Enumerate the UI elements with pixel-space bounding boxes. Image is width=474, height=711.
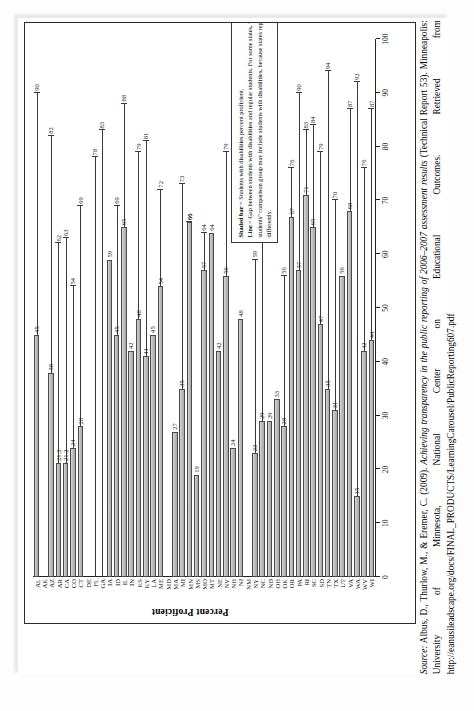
axis-tick-label: 10 — [381, 511, 390, 535]
bar — [354, 496, 360, 577]
chart-row: 7335 — [179, 39, 185, 577]
gap-value-label: 54 — [69, 278, 76, 285]
y-axis-title: Percent Proficient — [25, 607, 367, 621]
bar — [136, 319, 142, 577]
category-label: NE — [216, 579, 223, 597]
gap-line — [146, 141, 147, 356]
bar-value-label: 28 — [77, 418, 84, 425]
gap-value-label: 69 — [77, 197, 84, 204]
legend-line-2: Line = Gap between students with disabil… — [245, 22, 272, 237]
axis-tick — [376, 38, 380, 39]
category-label: IA — [106, 579, 113, 597]
bar-value-label: 45 — [149, 326, 156, 333]
gap-value-label: 79 — [135, 143, 142, 150]
category-label: NY — [252, 579, 259, 597]
bar-value-label: 35 — [324, 380, 331, 387]
gap-line-cap — [135, 151, 141, 152]
gap-line-cap — [77, 205, 83, 206]
bar-value-label: 45 — [33, 326, 40, 333]
gap-line-cap — [223, 151, 229, 152]
gap-line-cap — [303, 130, 309, 131]
bar-value-label: 28 — [280, 418, 287, 425]
bar — [78, 426, 84, 577]
bar — [56, 463, 62, 577]
gap-value-label: 59 — [251, 251, 258, 258]
bar — [34, 335, 40, 577]
category-label: GA — [99, 579, 106, 597]
gap-line-cap — [179, 183, 185, 184]
category-label: WI — [368, 579, 375, 597]
bar — [107, 260, 113, 577]
chart-row: 7667 — [289, 39, 295, 577]
gap-line — [350, 109, 351, 211]
category-label: WV — [361, 579, 368, 597]
category-label: NH — [230, 579, 237, 597]
chart-row: 8238 — [48, 39, 54, 577]
gap-line-cap — [288, 167, 294, 168]
chart-row: 5628 — [281, 39, 287, 577]
axis-tick-label: 40 — [381, 350, 390, 374]
category-label: KY — [143, 579, 150, 597]
axis-tick-label: 70 — [381, 188, 390, 212]
axis-tick-label: 30 — [381, 404, 390, 428]
bar-value-label: 59 — [106, 251, 113, 258]
category-label: IN — [128, 579, 135, 597]
chart-row: 7956 — [223, 39, 229, 577]
chart-row: 27 — [172, 39, 178, 577]
bar-value-label: 19 — [193, 466, 200, 473]
bar-value-label: 42 — [215, 342, 222, 349]
gap-line-cap — [281, 275, 287, 276]
axis-tick — [376, 576, 380, 577]
chart-row: 9045 — [34, 39, 40, 577]
gap-line — [58, 243, 59, 463]
chart-row: 8141 — [143, 39, 149, 577]
axis-tick — [376, 92, 380, 93]
bar-value-label: 42 — [360, 342, 367, 349]
chart-row: 6945 — [114, 39, 120, 577]
legend-line-desc: = Gap between students with disabilities… — [246, 22, 271, 237]
gap-line — [160, 190, 161, 287]
bar — [267, 421, 273, 577]
gap-line — [306, 130, 307, 195]
gap-line — [320, 152, 321, 324]
category-label: WA — [354, 579, 361, 597]
bar — [325, 389, 331, 577]
caption-source-label: Source: — [419, 646, 429, 675]
category-label: IL — [121, 579, 128, 597]
gap-line-cap — [354, 81, 360, 82]
bar — [223, 276, 229, 577]
gap-line — [95, 157, 96, 577]
bar-value-label: 24 — [69, 439, 76, 446]
chart-row: 59 — [107, 39, 113, 577]
category-label: UT — [339, 579, 346, 597]
gap-value-label: 83 — [302, 122, 309, 129]
chart-row — [165, 39, 171, 577]
gap-line — [328, 71, 329, 388]
bar-value-label: 21.2 — [62, 449, 69, 461]
gap-line-cap — [63, 237, 69, 238]
plot-area: 01020304050607080901009045ALAK8238AZ6221… — [33, 39, 375, 577]
bar — [150, 335, 156, 577]
gap-line — [371, 109, 372, 340]
gap-value-label: 63 — [62, 229, 69, 236]
chart-row: 8465 — [310, 39, 316, 577]
gap-line-cap — [296, 92, 302, 93]
category-label: KS — [136, 579, 143, 597]
category-label: MT — [208, 579, 215, 597]
bar-value-label: 29 — [258, 412, 265, 419]
category-label: AK — [41, 579, 48, 597]
bar — [339, 276, 345, 577]
gap-line-cap — [361, 167, 367, 168]
bar — [209, 233, 215, 577]
bar-value-label: 42 — [127, 342, 134, 349]
axis-tick — [376, 253, 380, 254]
gap-line-cap — [121, 103, 127, 104]
gap-value-label: 90 — [33, 84, 40, 91]
chart-row: 8865 — [121, 39, 127, 577]
category-label: MD — [165, 579, 172, 597]
bar-value-label: 24 — [229, 439, 236, 446]
gap-line — [284, 276, 285, 427]
gap-line-cap — [347, 108, 353, 109]
category-label: AZ — [48, 579, 55, 597]
axis-tick — [376, 468, 380, 469]
